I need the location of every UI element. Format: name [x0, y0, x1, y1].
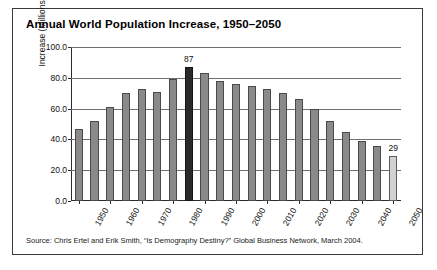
y-tick-label: 40.0 [50, 134, 67, 144]
bar [279, 93, 287, 201]
bar [248, 86, 256, 202]
x-tick-label: 2050 [407, 206, 425, 227]
bar [200, 73, 208, 201]
y-tick-label: 100.0 [46, 42, 67, 52]
y-tick-mark [68, 78, 71, 79]
x-tick-label: 2030 [344, 206, 362, 227]
bar [358, 141, 366, 201]
x-tick-label: 2040 [375, 206, 393, 227]
bar [373, 146, 381, 201]
y-tick-label: 60.0 [50, 104, 67, 114]
x-tick-mark [236, 201, 237, 204]
bar [263, 89, 271, 201]
bar [310, 109, 318, 201]
source-note: Source: Chris Ertel and Erik Smith, “Is … [26, 236, 363, 245]
gridline [71, 78, 401, 79]
bar-value-label: 29 [388, 143, 397, 153]
x-tick-mark [173, 201, 174, 204]
bar [185, 67, 193, 201]
x-tick-label: 2000 [249, 206, 267, 227]
x-tick-mark [205, 201, 206, 204]
x-tick-mark [142, 201, 143, 204]
bar [169, 79, 177, 201]
bar [389, 156, 397, 201]
x-tick-mark [110, 201, 111, 204]
y-axis-title: Increase (Millions) [37, 0, 47, 92]
bar [75, 129, 83, 201]
x-tick-mark [267, 201, 268, 204]
y-tick-mark [68, 170, 71, 171]
bar [326, 121, 334, 201]
y-tick-mark [68, 47, 71, 48]
x-tick-mark [362, 201, 363, 204]
bar [90, 121, 98, 201]
y-tick-label: 20.0 [50, 165, 67, 175]
y-tick-mark [68, 139, 71, 140]
y-tick-mark [68, 201, 71, 202]
y-tick-mark [68, 109, 71, 110]
bar [106, 107, 114, 201]
x-tick-label: 1980 [187, 206, 205, 227]
x-tick-label: 1960 [124, 206, 142, 227]
bar [122, 93, 130, 201]
bar-value-label: 87 [184, 54, 193, 64]
bar [295, 99, 303, 201]
x-tick-mark [299, 201, 300, 204]
x-tick-label: 1970 [155, 206, 173, 227]
x-tick-label: 1950 [92, 206, 110, 227]
x-tick-mark [393, 201, 394, 204]
x-tick-label: 1990 [218, 206, 236, 227]
bar [153, 92, 161, 201]
x-tick-mark [330, 201, 331, 204]
plot-area: 8729 19501960197019801990200020102020203… [71, 47, 401, 201]
bar [342, 132, 350, 201]
bar [232, 84, 240, 201]
y-tick-label: 0.0 [55, 196, 67, 206]
chart-figure: Annual World Population Increase, 1950–2… [12, 8, 423, 255]
y-tick-label: 80.0 [50, 73, 67, 83]
bar [216, 81, 224, 201]
x-tick-mark [79, 201, 80, 204]
gridline [71, 47, 401, 48]
bar [138, 89, 146, 201]
x-tick-label: 2020 [312, 206, 330, 227]
chart-title: Annual World Population Increase, 1950–2… [26, 18, 281, 30]
x-tick-label: 2010 [281, 206, 299, 227]
